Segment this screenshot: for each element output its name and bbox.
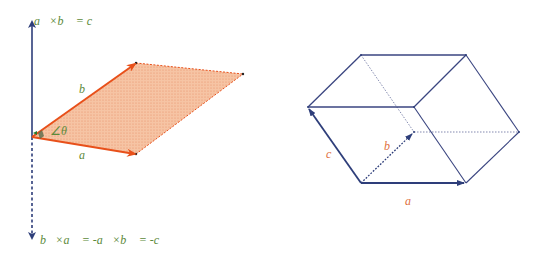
box-hidden-edge: [361, 55, 414, 132]
box-edge: [414, 107, 466, 183]
box-vector-a-label: a⃗: [405, 194, 420, 208]
box-vector-b-label: b⃗: [384, 139, 399, 153]
box-edge: [466, 132, 519, 183]
b-end-point: [135, 62, 137, 64]
vector-b-label: b⃗: [79, 82, 94, 96]
box-edge: [466, 55, 519, 132]
box-edge: [414, 55, 466, 107]
cross-product-diagram: a⃗×b⃗ = c⃗ b⃗×a⃗ = -a⃗×b⃗ = -c⃗ b⃗ a⃗ ∠θ…: [0, 0, 547, 258]
bottom-equation-label: b⃗×a⃗ = -a⃗×b⃗ = -c⃗: [40, 233, 168, 247]
angle-theta-label: ∠θ: [50, 124, 67, 138]
box-vector-c-label: c⃗: [326, 147, 341, 161]
vector-a-label: a⃗: [79, 148, 94, 162]
top-equation-label: a⃗×b⃗ = c⃗: [34, 14, 102, 28]
a-end-point: [135, 153, 137, 155]
parallelogram-area: [32, 63, 243, 154]
right-figure-parallelepiped: [307, 54, 520, 183]
box-edge: [308, 55, 361, 107]
box-vector-c-arrow: [309, 109, 361, 183]
left-figure: a⃗×b⃗ = c⃗ b⃗×a⃗ = -a⃗×b⃗ = -c⃗ b⃗ a⃗ ∠θ: [32, 14, 244, 247]
corner-point: [242, 73, 244, 75]
